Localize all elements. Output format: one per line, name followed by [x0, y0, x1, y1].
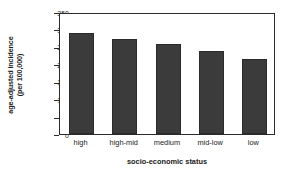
- bar-medium: [156, 44, 181, 134]
- x-tick-label-high: high: [59, 139, 102, 147]
- bar-chart-figure: age-adjusted incidence (per 100,000) 0 5…: [0, 0, 290, 183]
- y-axis-title-line2: (per 100,000): [15, 36, 24, 113]
- x-tick-label-high-mid: high-mid: [102, 139, 145, 147]
- y-axis-title: age-adjusted incidence (per 100,000): [0, 0, 30, 150]
- bar-low: [242, 59, 267, 134]
- x-tick-label-medium: medium: [145, 139, 188, 147]
- x-axis-title: socio-economic status: [59, 157, 275, 166]
- y-tick-mark-0: [54, 135, 59, 136]
- bar-high: [69, 33, 94, 134]
- bar-mid-low: [199, 51, 224, 134]
- bar-high-mid: [112, 39, 137, 134]
- plot-area: [59, 13, 275, 135]
- x-tick-label-low: low: [232, 139, 275, 147]
- x-tick-label-mid-low: mid-low: [189, 139, 232, 147]
